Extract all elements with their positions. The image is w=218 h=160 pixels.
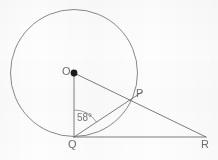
point-label-o: O bbox=[62, 66, 71, 77]
center-dot bbox=[71, 70, 78, 77]
angle-measure-label: 58° bbox=[77, 113, 92, 123]
point-label-q: Q bbox=[68, 139, 77, 150]
geometry-figure: O P Q R 58° bbox=[0, 0, 218, 160]
segment-OR bbox=[74, 73, 206, 137]
point-label-p: P bbox=[136, 88, 143, 99]
point-label-r: R bbox=[201, 139, 209, 150]
geometry-canvas bbox=[0, 0, 218, 160]
